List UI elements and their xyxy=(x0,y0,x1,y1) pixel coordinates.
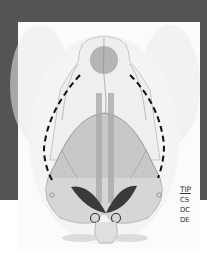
legend-item-cs: CS xyxy=(180,195,204,205)
legend-item-dc: DC xyxy=(180,205,204,215)
anatomy-illustration xyxy=(0,0,207,271)
vertical-bar-right xyxy=(108,93,114,203)
legend-item-de: DE xyxy=(180,215,204,225)
vertical-bar-left xyxy=(96,93,102,203)
legend-title: TIP xyxy=(180,185,204,195)
circle-marker xyxy=(90,46,118,74)
legend: TIP CS DC DE xyxy=(180,185,204,225)
